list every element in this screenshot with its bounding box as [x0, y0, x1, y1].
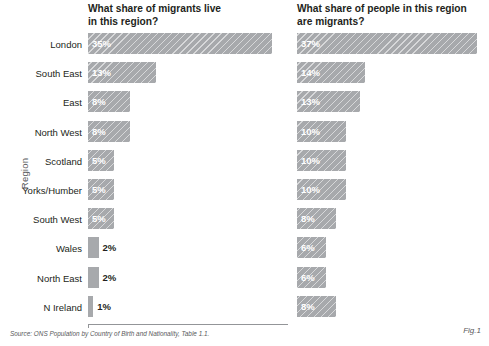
bar-value-label: 8%	[92, 121, 106, 142]
bar-value-label: 10%	[301, 179, 320, 200]
bar-row: 8%	[297, 207, 482, 236]
bar-row: 13%	[297, 90, 482, 119]
bar	[88, 237, 99, 258]
bar-row: 5%	[88, 207, 288, 236]
bar-value-label: 13%	[92, 62, 111, 83]
category-label: North West	[10, 120, 82, 149]
bar-value-label: 37%	[301, 33, 320, 54]
bar	[88, 33, 272, 54]
category-labels: LondonSouth EastEastNorth WestScotlandYo…	[10, 32, 82, 324]
bar-value-label: 10%	[301, 121, 320, 142]
bar	[88, 267, 99, 288]
bar-row: 37%	[297, 32, 482, 61]
bar-row: 6%	[297, 236, 482, 265]
bar-row: 8%	[88, 90, 288, 119]
axis-tick	[88, 324, 89, 328]
panel-plot: 37%14%13%10%10%10%8%6%6%8%	[297, 32, 482, 324]
category-label: Scotland	[10, 149, 82, 178]
bar-value-label: 5%	[92, 150, 106, 171]
bar-value-label: 6%	[301, 267, 315, 288]
bar-value-label: 5%	[92, 208, 106, 229]
bar-row: 6%	[297, 266, 482, 295]
category-label: North East	[10, 266, 82, 295]
bar-value-label: 2%	[103, 267, 117, 288]
bar-row: 1%	[88, 295, 288, 324]
bar-value-label: 14%	[301, 62, 320, 83]
bar-value-label: 1%	[97, 296, 111, 317]
bar-row: 5%	[88, 178, 288, 207]
category-label: Wales	[10, 236, 82, 265]
bar	[88, 296, 93, 317]
bar	[297, 33, 477, 54]
source-note: Source: ONS Population by Country of Bir…	[10, 330, 209, 337]
panel-title: What share of people in this region are …	[297, 2, 482, 28]
bar-row: 14%	[297, 61, 482, 90]
bar-value-label: 2%	[103, 237, 117, 258]
bar-value-label: 5%	[92, 179, 106, 200]
bar-row: 10%	[297, 120, 482, 149]
figure-number: Fig.1	[463, 326, 481, 335]
bar-value-label: 8%	[92, 91, 106, 112]
bar-value-label: 8%	[301, 296, 315, 317]
bar-row: 8%	[297, 295, 482, 324]
bar-value-label: 8%	[301, 208, 315, 229]
bar-row: 10%	[297, 178, 482, 207]
axis-baseline	[88, 324, 288, 325]
bar-row: 2%	[88, 266, 288, 295]
bar-value-label: 35%	[92, 33, 111, 54]
panel-share-of-migrants: What share of migrants live in this regi…	[88, 2, 288, 324]
bar-row: 2%	[88, 236, 288, 265]
bar-row: 8%	[88, 120, 288, 149]
bar-row: 5%	[88, 149, 288, 178]
panel-share-are-migrants: What share of people in this region are …	[297, 2, 482, 324]
bar-value-label: 13%	[301, 91, 320, 112]
bar-value-label: 10%	[301, 150, 320, 171]
bar-row: 35%	[88, 32, 288, 61]
category-label: East	[10, 90, 82, 119]
category-label: South West	[10, 207, 82, 236]
category-label: South East	[10, 61, 82, 90]
bar-row: 10%	[297, 149, 482, 178]
chart-root: Region LondonSouth EastEastNorth WestSco…	[0, 0, 489, 346]
bar-value-label: 6%	[301, 237, 315, 258]
category-label: N Ireland	[10, 295, 82, 324]
bar-row: 13%	[88, 61, 288, 90]
category-label: Yorks/Humber	[10, 178, 82, 207]
panel-title: What share of migrants live in this regi…	[88, 2, 288, 28]
category-label: London	[10, 32, 82, 61]
panel-plot: 35%13%8%8%5%5%5%2%2%1%	[88, 32, 288, 324]
